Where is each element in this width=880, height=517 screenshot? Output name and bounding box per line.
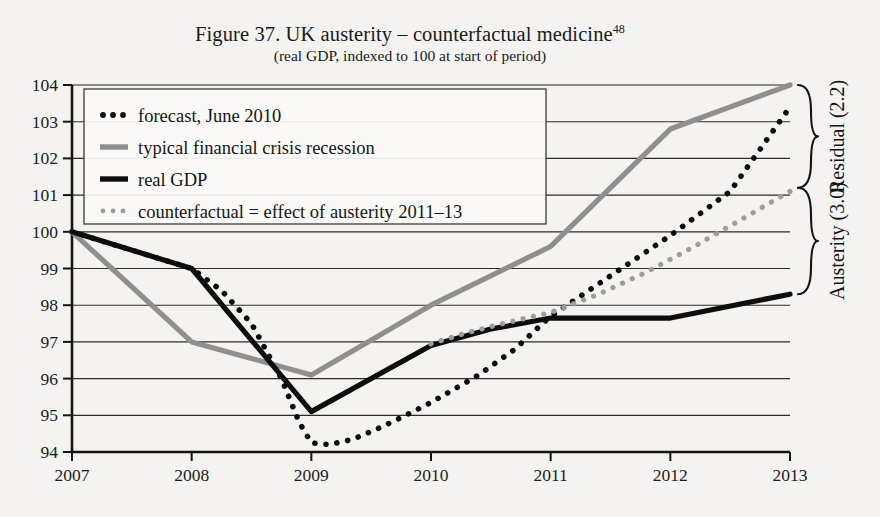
legend-marker-dot <box>111 209 116 214</box>
y-tick-label: 100 <box>32 222 59 242</box>
x-tick-label: 2009 <box>294 465 329 485</box>
legend-marker-dot <box>100 112 106 118</box>
x-tick-label: 2010 <box>414 465 449 485</box>
legend-marker-dot <box>120 112 126 118</box>
x-axis-ticks-group: 2007200820092010201120122013 <box>55 452 808 485</box>
y-tick-label: 94 <box>41 442 59 462</box>
legend-item-label: counterfactual = effect of austerity 201… <box>138 202 462 222</box>
chart-plot-area: 949596979899100101102103104 200720082009… <box>0 0 880 517</box>
brace-label: Austerity (3.0) <box>826 182 849 300</box>
x-tick-label: 2011 <box>533 465 567 485</box>
y-tick-label: 96 <box>41 369 59 389</box>
y-tick-label: 97 <box>41 332 59 352</box>
legend-marker-dot <box>110 112 116 118</box>
y-tick-label: 101 <box>32 185 58 205</box>
y-tick-label: 98 <box>41 295 59 315</box>
x-tick-label: 2008 <box>174 465 209 485</box>
chart-legend: forecast, June 2010typical financial cri… <box>84 89 546 224</box>
y-tick-label: 99 <box>41 259 59 279</box>
x-tick-label: 2007 <box>55 465 90 485</box>
brace-label: Residual (2.2) <box>826 80 849 193</box>
bracket-annotations-group: Residual (2.2)Austerity (3.0) <box>798 80 849 300</box>
legend-item-label: typical financial crisis recession <box>138 138 375 158</box>
figure-container: Figure 37. UK austerity – counterfactual… <box>0 0 880 517</box>
x-tick-label: 2013 <box>773 465 808 485</box>
y-tick-label: 103 <box>32 112 59 132</box>
x-tick-label: 2012 <box>653 465 688 485</box>
legend-item-label: forecast, June 2010 <box>138 106 281 126</box>
y-tick-label: 95 <box>41 405 59 425</box>
legend-marker-dot <box>101 209 106 214</box>
y-tick-label: 102 <box>32 148 58 168</box>
series-line <box>72 232 790 412</box>
y-axis-ticks-group: 949596979899100101102103104 <box>32 75 72 462</box>
legend-marker-dot <box>121 209 126 214</box>
brace-bracket <box>798 188 818 294</box>
legend-item-label: real GDP <box>138 170 207 190</box>
y-tick-label: 104 <box>32 75 59 95</box>
brace-bracket <box>798 85 818 188</box>
